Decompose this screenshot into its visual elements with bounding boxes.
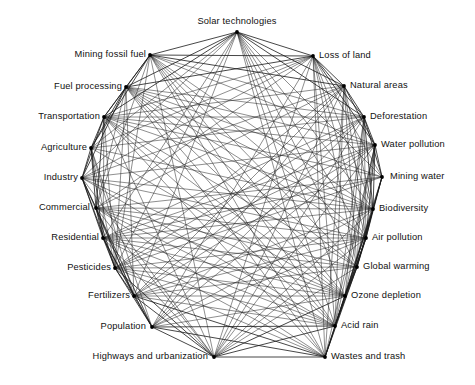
- graph-edge: [134, 117, 364, 296]
- graph-node-ozone-depletion[interactable]: [343, 294, 347, 298]
- node-label-commercial: Commercial: [39, 202, 90, 212]
- graph-node-water-pollution[interactable]: [373, 143, 377, 147]
- node-label-water-pollution: Water pollution: [381, 139, 445, 149]
- graph-node-fuel-processing[interactable]: [124, 85, 128, 89]
- graph-edge: [115, 145, 375, 268]
- network-diagram-figure: Solar technologiesLoss of landNatural ar…: [0, 0, 475, 385]
- graph-node-natural-areas[interactable]: [342, 84, 346, 88]
- graph-node-loss-of-land[interactable]: [311, 54, 315, 58]
- graph-edge: [150, 55, 357, 267]
- graph-edge: [96, 86, 344, 208]
- graph-edge: [237, 32, 313, 56]
- graph-edge: [115, 87, 126, 268]
- graph-node-wastes-and-trash[interactable]: [323, 355, 327, 359]
- node-label-fuel-processing: Fuel processing: [54, 81, 122, 91]
- node-label-acid-rain: Acid rain: [341, 320, 379, 330]
- graph-node-highways-and-urbanization[interactable]: [212, 355, 216, 359]
- graph-edge: [375, 145, 382, 177]
- graph-edge: [126, 87, 345, 296]
- graph-edge: [126, 55, 150, 87]
- graph-node-agriculture[interactable]: [89, 146, 93, 150]
- edge-layer: [82, 32, 382, 357]
- graph-node-fertilizers[interactable]: [132, 294, 136, 298]
- graph-node-commercial[interactable]: [94, 206, 98, 210]
- node-label-mining-fossil-fuel: Mining fossil fuel: [75, 49, 146, 59]
- graph-node-global-warming[interactable]: [355, 265, 359, 269]
- graph-node-air-pollution[interactable]: [364, 236, 368, 240]
- graph-edge: [126, 32, 237, 87]
- node-label-population: Population: [101, 321, 146, 331]
- node-label-highways-and-urbanization: Highways and urbanization: [93, 351, 208, 361]
- graph-node-residential[interactable]: [101, 236, 105, 240]
- node-label-deforestation: Deforestation: [370, 111, 427, 121]
- node-label-transportation: Transportation: [38, 111, 100, 121]
- graph-node-population[interactable]: [150, 325, 154, 329]
- node-label-air-pollution: Air pollution: [372, 232, 423, 242]
- graph-edge: [150, 55, 375, 145]
- graph-edge: [104, 117, 345, 296]
- node-label-loss-of-land: Loss of land: [319, 50, 371, 60]
- node-label-solar-technologies: Solar technologies: [197, 16, 276, 26]
- node-label-pesticides: Pesticides: [67, 262, 111, 272]
- graph-edge: [237, 32, 364, 117]
- graph-edge: [126, 87, 373, 209]
- node-label-global-warming: Global warming: [363, 261, 430, 271]
- node-label-agriculture: Agriculture: [41, 142, 87, 152]
- graph-edge: [313, 56, 335, 326]
- graph-edge: [214, 238, 366, 357]
- graph-node-biodiversity[interactable]: [371, 207, 375, 211]
- graph-node-deforestation[interactable]: [362, 115, 366, 119]
- graph-edge: [115, 268, 325, 357]
- graph-node-transportation[interactable]: [102, 115, 106, 119]
- graph-node-acid-rain[interactable]: [333, 324, 337, 328]
- graph-node-mining-water[interactable]: [380, 175, 384, 179]
- graph-node-industry[interactable]: [80, 176, 84, 180]
- graph-edge: [152, 145, 375, 327]
- graph-canvas: [0, 0, 475, 385]
- node-label-natural-areas: Natural areas: [350, 80, 408, 90]
- node-label-ozone-depletion: Ozone depletion: [351, 290, 421, 300]
- graph-edge: [126, 87, 134, 296]
- node-label-residential: Residential: [51, 232, 99, 242]
- node-label-industry: Industry: [44, 172, 78, 182]
- node-label-wastes-and-trash: Wastes and trash: [331, 351, 405, 361]
- graph-node-solar-technologies[interactable]: [235, 30, 239, 34]
- graph-node-pesticides[interactable]: [113, 266, 117, 270]
- graph-edge: [82, 145, 375, 178]
- node-label-fertilizers: Fertilizers: [88, 290, 130, 300]
- graph-edge: [96, 208, 214, 357]
- graph-edge: [104, 86, 344, 117]
- graph-edge: [150, 55, 313, 56]
- node-label-biodiversity: Biodiversity: [379, 203, 428, 213]
- graph-node-mining-fossil-fuel[interactable]: [148, 53, 152, 57]
- node-label-mining-water: Mining water: [390, 171, 445, 181]
